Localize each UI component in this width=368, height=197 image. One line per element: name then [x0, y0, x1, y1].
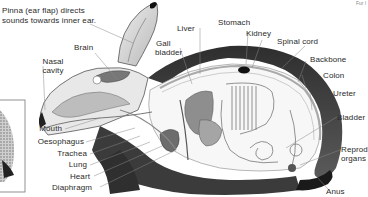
label-gall-line1: Gall [156, 39, 171, 48]
label-ureter: Ureter [333, 89, 356, 98]
label-pinna-line1: Pinna (ear flap) directs [2, 6, 85, 15]
label-diaphragm: Diaphragm [40, 183, 92, 192]
label-mouth: Mouth [20, 124, 62, 133]
label-oesophagus: Oesophagus [20, 137, 84, 146]
label-repro-line2: organs [341, 154, 366, 163]
label-lung: Lung [40, 160, 87, 169]
inset-box [0, 100, 25, 192]
body-cavity [149, 64, 320, 172]
corner-caption: Fur l [356, 0, 366, 6]
label-trachea: Trachea [40, 149, 87, 158]
label-kidney: Kidney [246, 29, 271, 38]
ear [118, 2, 158, 66]
label-repro-line1: Reprod [341, 145, 368, 154]
label-stomach: Stomach [218, 18, 250, 27]
label-bladder: Bladder [337, 113, 365, 122]
label-spinal-cord: Spinal cord [277, 37, 318, 46]
label-heart: Heart [40, 172, 90, 181]
label-nasal-line1: Nasal [40, 57, 66, 66]
label-liver: Liver [177, 24, 195, 33]
label-backbone: Backbone [310, 55, 346, 64]
label-pinna-line2: sounds towards inner ear. [2, 16, 96, 25]
label-gall-line2: bladder [155, 48, 182, 57]
label-nasal-line2: cavity [40, 66, 66, 75]
label-colon: Colon [323, 71, 344, 80]
label-anus: Anus [326, 187, 345, 196]
label-brain: Brain [74, 43, 93, 52]
rabbit-anatomy-diagram: Fur l Pinna (ear flap) directs sounds to… [0, 0, 368, 197]
